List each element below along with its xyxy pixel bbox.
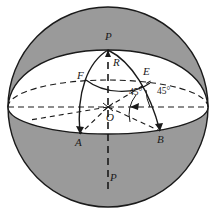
label-point-a: A xyxy=(75,137,82,148)
label-pole-bottom: P xyxy=(110,172,117,183)
label-point-b: B xyxy=(157,134,164,145)
sphere-diagram-figure: P R F E 45° 45° O A B P xyxy=(0,0,216,215)
label-center-o: O xyxy=(106,112,114,123)
label-radius-r: R xyxy=(113,57,120,68)
label-angle-left: 45° xyxy=(129,88,142,98)
label-arc-e: E xyxy=(143,66,150,77)
label-angle-right: 45° xyxy=(157,87,170,97)
label-pole-top: P xyxy=(105,31,112,42)
label-arc-f: F xyxy=(77,70,84,81)
